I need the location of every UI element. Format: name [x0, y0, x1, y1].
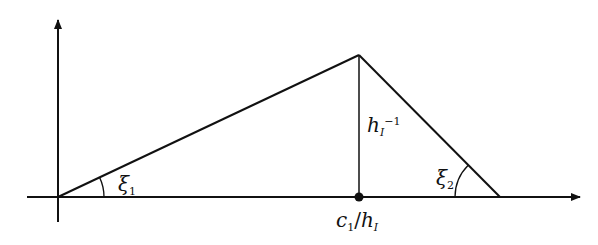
left-edge — [58, 55, 359, 197]
angle-arc-right — [455, 165, 468, 197]
height-label: hI−1 — [367, 113, 400, 139]
foot-point — [355, 193, 364, 202]
triangle-diagram — [0, 0, 598, 245]
angle-label-xi1: ξ1 — [118, 172, 136, 198]
angle-arc-left — [100, 177, 104, 197]
foot-label: c1/hI — [336, 208, 378, 234]
angle-label-xi2: ξ2 — [436, 166, 454, 192]
